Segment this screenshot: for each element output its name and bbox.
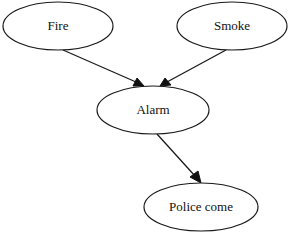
arrowhead-icon <box>160 78 171 86</box>
node-fire: Fire <box>3 2 113 50</box>
node-label-fire: Fire <box>48 18 69 33</box>
node-label-smoke: Smoke <box>214 18 250 33</box>
node-label-police-come: Police come <box>169 199 233 214</box>
bayesian-network-diagram: Fire Smoke Alarm Police come <box>0 0 288 234</box>
edge-alarm-to-police <box>157 134 201 183</box>
node-alarm: Alarm <box>97 86 209 134</box>
node-label-alarm: Alarm <box>136 102 169 117</box>
node-smoke: Smoke <box>177 2 287 50</box>
edge-fire-to-alarm <box>63 50 144 86</box>
node-police-come: Police come <box>144 183 258 231</box>
edge-smoke-to-alarm <box>160 50 226 86</box>
arrowhead-icon <box>133 78 144 86</box>
